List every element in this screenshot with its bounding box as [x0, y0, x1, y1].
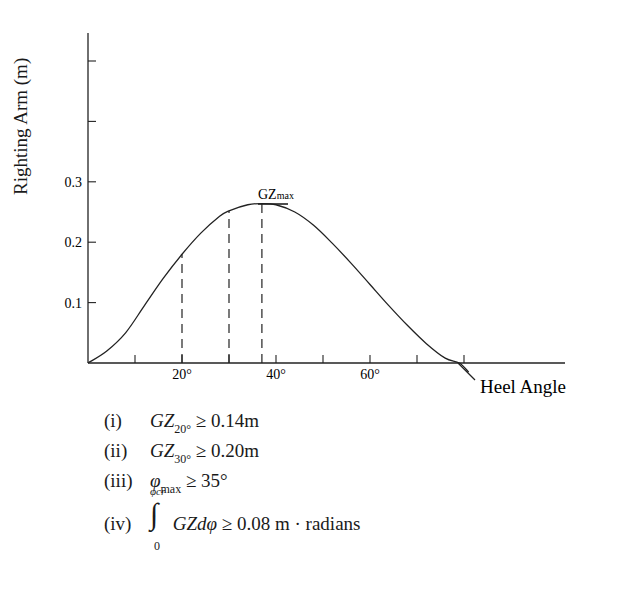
svg-text:0.1: 0.1 [65, 296, 83, 311]
criterion-sub: 20° [174, 422, 191, 436]
axes [88, 33, 565, 363]
criterion-lhs: GZ [150, 440, 174, 461]
svg-text:60°: 60° [360, 367, 380, 382]
criterion-rhs: ≥ 0.08 m · radians [222, 513, 361, 534]
criterion-number: (iii) [104, 470, 150, 492]
criterion-sub: 30° [174, 452, 191, 466]
svg-text:0.2: 0.2 [65, 235, 83, 250]
heel-angle-leader [458, 363, 475, 380]
y-axis-label: Righting Arm (m) [10, 58, 32, 195]
criterion-lhs: GZ [150, 410, 174, 431]
criterion-number: (iv) [104, 513, 150, 535]
x-axis-label: Heel Angle [480, 376, 566, 397]
criterion-number: (i) [104, 410, 150, 432]
gz-max-label: GZmax [258, 187, 294, 202]
gz-curve [88, 204, 469, 373]
integral-upper-limit: φcr [150, 485, 165, 497]
integral-lower-limit: 0 [154, 539, 160, 554]
svg-text:20°: 20° [172, 367, 192, 382]
criterion-lhs: GZdφ [173, 513, 217, 534]
criterion-rhs: ≥ 35° [186, 470, 228, 491]
integral-sign-icon: ∫ [150, 499, 158, 529]
criterion-number: (ii) [104, 440, 150, 462]
criterion-2: (ii)GZ30° ≥ 0.20m [104, 440, 259, 462]
reference-lines [182, 204, 262, 363]
tick-labels: 20°40°60°0.10.20.3 [65, 175, 380, 382]
gz-chart: 20°40°60°0.10.20.3 GZmax Heel Angle [0, 0, 623, 400]
criterion-rhs: ≥ 0.14m [196, 410, 259, 431]
criterion-3: (iii)φmax ≥ 35° [104, 470, 228, 492]
criterion-4: (iv) φcr ∫ 0 GZdφ ≥ 0.08 m · radians [104, 513, 360, 535]
svg-text:40°: 40° [266, 367, 286, 382]
criterion-1: (i)GZ20° ≥ 0.14m [104, 410, 259, 432]
svg-text:0.3: 0.3 [65, 175, 83, 190]
criterion-rhs: ≥ 0.20m [196, 440, 259, 461]
